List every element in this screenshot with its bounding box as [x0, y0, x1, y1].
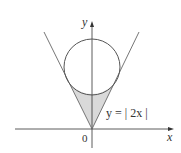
y-axis-arrow-icon — [90, 21, 94, 27]
x-axis — [15, 127, 174, 131]
x-axis-label: x — [166, 130, 173, 144]
curve-label: y = | 2x | — [106, 106, 148, 120]
y-axis-label: y — [81, 15, 88, 29]
diagram-canvas: y x 0 y = | 2x | — [0, 0, 181, 153]
origin-label: 0 — [82, 132, 88, 144]
